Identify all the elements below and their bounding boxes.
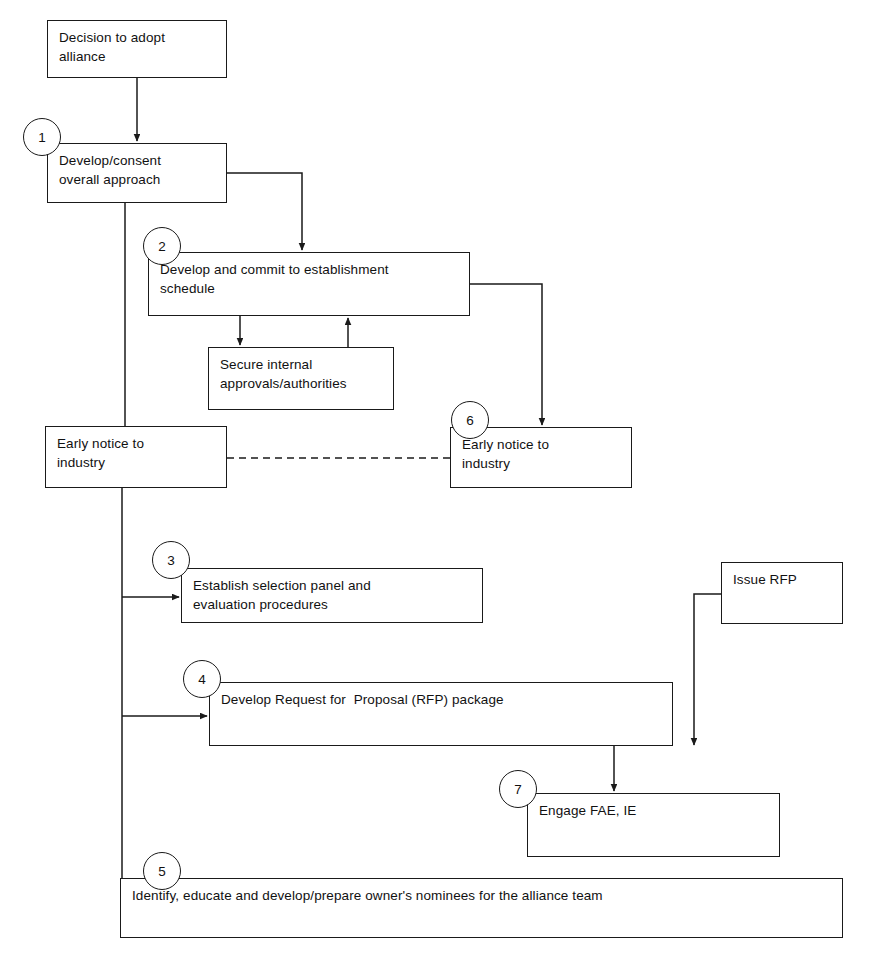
node-early-notice-a[interactable]: Early notice to industry [45,426,227,488]
step-marker-2: 2 [143,227,181,265]
node-owner-nominees[interactable]: Identify, educate and develop/prepare ow… [120,878,843,938]
node-establish-sched[interactable]: Develop and commit to establishment sche… [148,252,470,316]
step-marker-6: 6 [451,401,489,439]
node-decision[interactable]: Decision to adopt alliance [47,20,227,78]
step-marker-7: 7 [499,770,537,808]
node-engage-fae[interactable]: Engage FAE, IE [527,793,780,857]
edge-develop-to-schedule [227,173,302,250]
node-develop-consent[interactable]: Develop/consent overall approach [47,143,227,203]
node-rfp-package[interactable]: Develop Request for Proposal (RFP) packa… [209,682,673,746]
node-selection-panel[interactable]: Establish selection panel and evaluation… [181,568,483,623]
edge-issue-rfp-down [694,594,721,745]
flowchart-canvas: Decision to adopt allianceDevelop/consen… [0,0,879,970]
step-marker-5: 5 [143,852,181,890]
step-marker-4: 4 [183,660,221,698]
step-marker-3: 3 [152,541,190,579]
node-issue-rfp[interactable]: Issue RFP [721,562,843,624]
node-secure-internal[interactable]: Secure internal approvals/authorities [208,347,394,410]
step-marker-1: 1 [23,118,61,156]
